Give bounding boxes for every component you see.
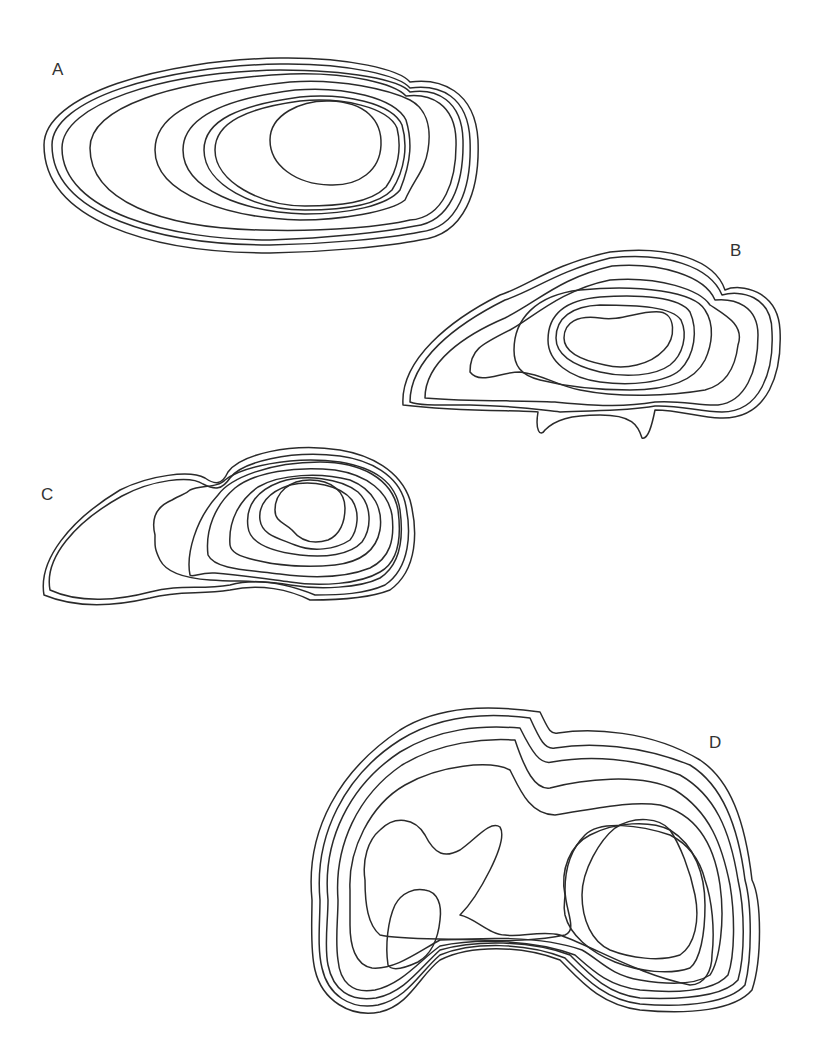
panel-label-b: B [730, 241, 741, 260]
contour-line [230, 475, 381, 566]
panel-label-c: C [41, 485, 53, 504]
contour-line [548, 296, 694, 384]
contour-line [556, 305, 684, 375]
contour-line [52, 64, 470, 245]
contour-line [49, 454, 408, 599]
contour-line [326, 727, 743, 999]
contour-line [204, 96, 405, 210]
contour-line [350, 765, 722, 983]
contour-line [564, 824, 705, 972]
contour-line [260, 483, 357, 549]
contour-line [425, 265, 758, 405]
panel-label-a: A [52, 60, 64, 79]
panel-b [403, 250, 780, 438]
contour-line [275, 480, 345, 542]
panel-a [44, 58, 478, 253]
contour-line [403, 250, 780, 438]
contour-figure: A B C D [0, 0, 820, 1061]
contour-line [248, 478, 369, 556]
contour-line [337, 740, 734, 992]
contour-line [564, 312, 673, 367]
contour-line [207, 469, 392, 577]
panel-c [43, 448, 414, 605]
panel-label-d: D [709, 733, 721, 752]
contour-line [270, 101, 381, 185]
contour-line [364, 820, 713, 985]
panel-d [311, 708, 759, 1013]
